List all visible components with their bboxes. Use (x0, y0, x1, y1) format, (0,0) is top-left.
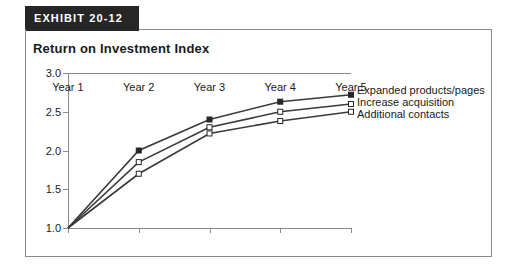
chart-title: Return on Investment Index (33, 41, 209, 56)
data-point-marker (207, 117, 212, 122)
legend-item: Increase acquisition (357, 97, 507, 108)
exhibit-tag-label: EXHIBIT 20-12 (34, 12, 123, 24)
data-point-marker (278, 109, 283, 114)
data-point-marker (278, 119, 283, 124)
data-point-marker (136, 148, 141, 153)
y-tick-label: 2.5 (46, 106, 61, 118)
series-layer (68, 73, 351, 228)
data-point-marker (136, 171, 141, 176)
x-tick (210, 228, 211, 233)
y-tick-label: 1.0 (46, 222, 61, 234)
legend-item: Additional contacts (357, 109, 507, 120)
data-point-marker (207, 125, 212, 130)
y-tick-label: 2.0 (46, 145, 61, 157)
legend-item: Expanded products/pages (357, 85, 507, 96)
plot-area: 1.01.52.02.53.0 Year 1Year 2Year 3Year 4… (68, 73, 351, 228)
figure-frame-tag-overlap (26, 29, 139, 31)
exhibit-figure: EXHIBIT 20-12 Return on Investment Index… (0, 0, 516, 278)
x-tick (68, 228, 69, 233)
data-point-marker (349, 109, 354, 114)
x-tick (139, 228, 140, 233)
series-line (68, 104, 351, 228)
x-tick (280, 228, 281, 233)
data-point-marker (349, 92, 354, 97)
exhibit-tag: EXHIBIT 20-12 (25, 6, 139, 30)
series-line (68, 95, 351, 228)
data-point-marker (207, 131, 212, 136)
legend: Expanded products/pagesIncrease acquisit… (357, 85, 507, 121)
y-tick-label: 3.0 (46, 67, 61, 79)
x-tick (351, 228, 352, 233)
y-tick-label: 1.5 (46, 183, 61, 195)
data-point-marker (349, 102, 354, 107)
data-point-marker (136, 160, 141, 165)
data-point-marker (278, 99, 283, 104)
